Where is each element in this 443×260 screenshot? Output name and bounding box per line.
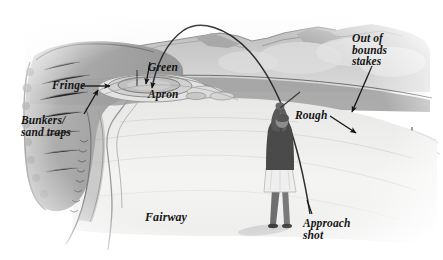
label-bunkers: Bunkers/ sand traps xyxy=(21,115,71,138)
label-apron: Apron xyxy=(148,89,179,101)
label-rough: Rough xyxy=(295,110,327,122)
label-green: Green xyxy=(148,62,178,74)
label-fringe: Fringe xyxy=(52,80,85,92)
label-out-of-bounds: Out of bounds stakes xyxy=(352,33,387,68)
illustration-canvas: Green Apron Fringe Bunkers/ sand traps R… xyxy=(0,0,443,260)
label-fairway: Fairway xyxy=(145,211,187,223)
label-approach-shot: Approach shot xyxy=(303,218,350,241)
